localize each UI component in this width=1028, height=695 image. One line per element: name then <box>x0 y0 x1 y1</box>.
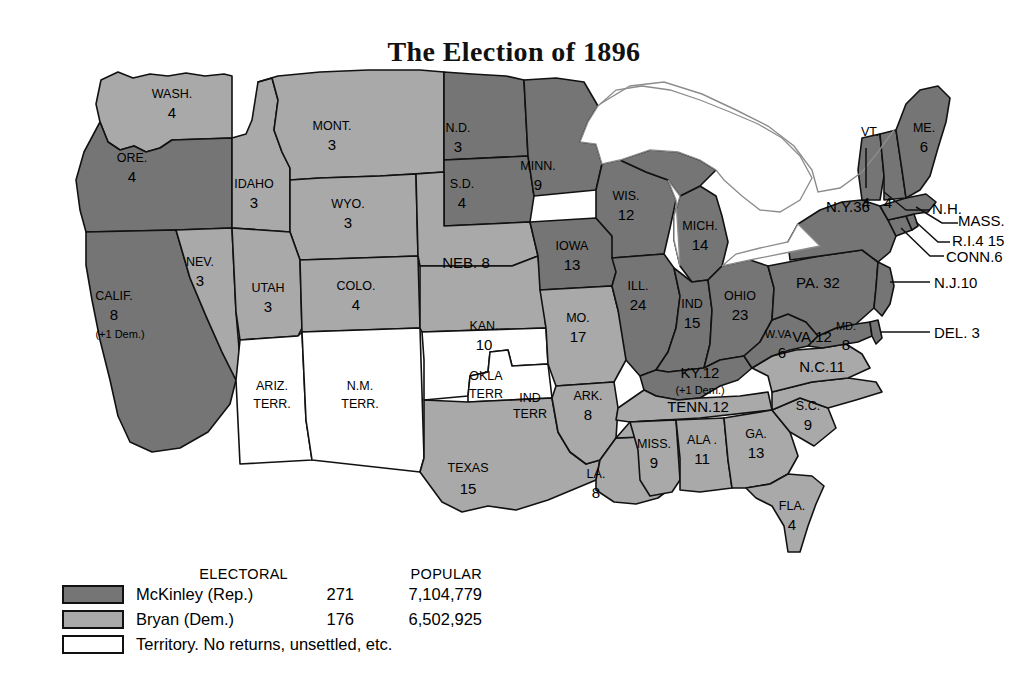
label-idaho-votes: 3 <box>250 194 258 211</box>
label-oregon-votes: 4 <box>128 168 136 185</box>
label-nebraska: NEB. 8 <box>442 254 490 271</box>
label-georgia-votes: 13 <box>748 444 765 461</box>
label-pennsylvania: PA. 32 <box>796 274 840 291</box>
legend-electoral-bryan: 176 <box>288 610 354 629</box>
label-louisiana-votes: 8 <box>592 484 600 501</box>
label-nevada-votes: 3 <box>196 272 204 289</box>
state-vermont[interactable] <box>858 134 884 200</box>
label-maine-votes: 6 <box>920 138 928 155</box>
label-alabama-name: ALA . <box>687 433 717 447</box>
label-utah-votes: 3 <box>264 298 272 315</box>
label-new-jersey: N.J.10 <box>934 274 977 291</box>
label-indian-territory-l1: IND <box>519 391 541 405</box>
state-wyoming[interactable] <box>290 174 418 260</box>
label-arkansas-votes: 8 <box>584 406 592 423</box>
state-florida[interactable] <box>746 474 824 552</box>
label-missouri-votes: 17 <box>570 328 587 345</box>
legend-popular-bryan: 6,502,925 <box>354 610 482 629</box>
label-kentucky-votes: KY.12 <box>681 364 720 381</box>
label-iowa-votes: 13 <box>564 256 581 273</box>
legend-row-territory[interactable]: Territory. No returns, unsettled, etc. <box>62 632 532 657</box>
label-maryland-votes: 8 <box>842 336 850 353</box>
state-iowa[interactable] <box>530 218 616 290</box>
legend-header-row: ELECTORAL POPULAR <box>62 560 532 582</box>
label-delaware: DEL. 3 <box>934 324 980 341</box>
label-ohio-votes: 23 <box>732 306 749 323</box>
label-washington-votes: 4 <box>168 104 176 121</box>
label-colorado-votes: 4 <box>352 296 360 313</box>
label-wisconsin-name: WIS. <box>612 189 639 203</box>
label-iowa-name: IOWA <box>556 239 590 253</box>
label-alabama-votes: 11 <box>694 450 710 467</box>
label-arizona-territory-line1: ARIZ. <box>256 379 288 393</box>
label-south-dakota-name: S.D. <box>450 177 474 191</box>
label-minnesota-name: MINN. <box>520 159 555 173</box>
legend-candidate-mckinley: McKinley (Rep.) <box>136 585 288 604</box>
legend-swatch-republican <box>62 585 124 604</box>
label-mississippi-name: MISS. <box>637 437 671 451</box>
label-maryland-name: MD. <box>836 320 856 332</box>
label-tennessee: TENN.12 <box>667 398 729 415</box>
label-mississippi-votes: 9 <box>650 454 658 471</box>
label-montana-votes: 3 <box>328 136 336 153</box>
label-ohio-name: OHIO <box>724 289 756 303</box>
label-texas-votes: 15 <box>460 480 477 497</box>
label-michigan-votes: 14 <box>692 236 709 253</box>
state-colorado[interactable] <box>300 256 420 332</box>
label-north-dakota-name: N.D. <box>446 121 471 135</box>
legend-row-mckinley[interactable]: McKinley (Rep.) 271 7,104,779 <box>62 582 532 607</box>
label-indiana-name: IND <box>681 297 703 311</box>
label-arizona-territory-line2: TERR. <box>253 397 291 411</box>
label-florida-votes: 4 <box>788 516 796 533</box>
label-colorado-name: COLO. <box>337 279 376 293</box>
legend-header-popular: POPULAR <box>288 566 482 582</box>
label-maine-name: ME. <box>913 121 935 135</box>
label-indiana-votes: 15 <box>684 314 701 331</box>
label-north-carolina: N.C.11 <box>799 358 845 375</box>
legend-row-bryan[interactable]: Bryan (Dem.) 176 6,502,925 <box>62 607 532 632</box>
label-new-mexico-territory-line2: TERR. <box>341 397 379 411</box>
label-south-dakota-votes: 4 <box>458 194 466 211</box>
label-missouri-name: MO. <box>566 311 590 325</box>
label-oregon-name: ORE. <box>117 151 148 165</box>
label-wyoming-name: WYO. <box>331 197 364 211</box>
label-california-name: CALIF. <box>95 289 133 303</box>
leader-line-rhode-island <box>916 222 950 242</box>
label-nevada-name: NEV. <box>186 255 214 269</box>
label-washington-name: WASH. <box>152 87 193 101</box>
label-virginia: VA.12 <box>792 328 832 345</box>
state-new-jersey[interactable] <box>874 262 894 316</box>
label-florida-name: FLA. <box>779 499 805 513</box>
label-wisconsin-votes: 12 <box>618 206 635 223</box>
label-oklahoma-territory-l2: TERR <box>469 387 503 401</box>
label-new-mexico-territory-line1: N.M. <box>347 379 373 393</box>
label-south-carolina-name: S.C. <box>796 399 820 413</box>
label-idaho-name: IDAHO <box>234 177 274 191</box>
legend-electoral-mckinley: 271 <box>288 585 354 604</box>
label-north-dakota-votes: 3 <box>454 138 462 155</box>
legend-popular-mckinley: 7,104,779 <box>354 585 482 604</box>
label-vermont-name: VT. <box>861 125 879 139</box>
legend-swatch-territory <box>62 635 124 654</box>
label-west-virginia-votes: 6 <box>778 344 786 361</box>
label-georgia-name: GA. <box>745 427 767 441</box>
label-mass-votes: 15 <box>988 232 1005 249</box>
label-minnesota-votes: 9 <box>534 176 542 193</box>
label-indian-territory-l2: TERR <box>513 407 547 421</box>
legend-swatch-democrat <box>62 610 124 629</box>
label-connecticut: CONN.6 <box>946 248 1003 265</box>
label-california-note: (+1 Dem.) <box>95 328 144 340</box>
label-west-virginia-name: W.VA <box>765 328 792 340</box>
legend-header-electoral: ELECTORAL <box>136 566 288 582</box>
label-wyoming-votes: 3 <box>344 214 352 231</box>
label-massachusetts-name: MASS. <box>958 212 1005 229</box>
label-montana-name: MONT. <box>313 119 352 133</box>
legend-territory-note: Territory. No returns, unsettled, etc. <box>136 635 392 654</box>
label-michigan-name: MICH. <box>682 219 717 233</box>
election-map-page: The Election of 1896 <box>0 0 1028 695</box>
label-arkansas-name: ARK. <box>573 389 602 403</box>
us-election-map: WASH. 4 ORE. 4 CALIF. 8 (+1 Dem.) NEV. 3… <box>0 60 1028 560</box>
label-kansas-name: KAN. <box>469 319 498 333</box>
label-texas-name: TEXAS <box>448 461 489 475</box>
legend-candidate-bryan: Bryan (Dem.) <box>136 610 288 629</box>
